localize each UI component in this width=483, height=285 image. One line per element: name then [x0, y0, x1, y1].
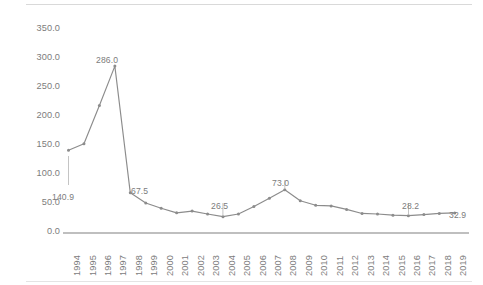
line-chart: 0.050.0100.0150.0200.0250.0300.0350.0 19…	[0, 0, 483, 285]
data-labels: 140.9286.067.526.573.028.232.9	[0, 0, 483, 285]
data-label-1997: 286.0	[96, 55, 118, 65]
data-label-1998: 67.5	[131, 186, 148, 196]
data-label-2004: 26.5	[211, 201, 228, 211]
data-label-2019: 32.9	[449, 210, 466, 220]
data-label-1994: 140.9	[52, 192, 74, 202]
data-label-2008: 73.0	[272, 178, 289, 188]
data-label-2016: 28.2	[402, 201, 419, 211]
